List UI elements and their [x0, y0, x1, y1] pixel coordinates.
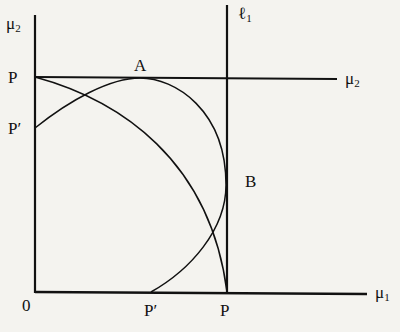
horizontal-line-mu2 [35, 77, 337, 79]
label-mu2-line: μ2 [345, 70, 360, 89]
x-axis [35, 292, 367, 294]
frontier-curve-PprimeABPprime [35, 78, 226, 292]
label-origin: 0 [22, 297, 31, 314]
label-B: B [245, 173, 256, 190]
label-l1: ℓ1 [238, 5, 252, 24]
label-P-prime-left: P′ [8, 120, 21, 137]
diagram-lines [0, 0, 400, 332]
y-axis-label: μ2 [6, 15, 21, 34]
frontier-curve-PP [35, 77, 227, 292]
x-axis-label: μ1 [375, 284, 390, 303]
label-P-prime-bottom: P′ [144, 302, 157, 319]
label-P-top: P [8, 69, 17, 86]
label-P-bottom: P [220, 302, 229, 319]
label-A: A [134, 57, 146, 74]
utility-frontier-diagram: μ2 P P′ A B ℓ1 μ2 0 P′ P μ1 [0, 0, 400, 332]
